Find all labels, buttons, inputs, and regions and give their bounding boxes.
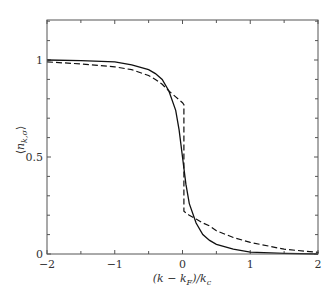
y-axis-label: ⟨nk,σ⟩ (14, 126, 29, 155)
x-axis-tick-labels: −2−1012 (39, 258, 322, 271)
x-tick-label: −1 (107, 258, 123, 271)
x-axis-label: (k − kF)/kc (153, 272, 212, 287)
y-tick-label: 0 (36, 248, 43, 261)
y-tick-label: 1 (36, 54, 43, 67)
series-layer (47, 60, 318, 254)
series-solid-line (47, 60, 318, 254)
x-tick-label: 2 (315, 258, 322, 271)
x-tick-label: 0 (179, 258, 186, 271)
y-tick-label: 0.5 (26, 151, 44, 164)
plot-frame (47, 20, 318, 254)
x-tick-label: 1 (247, 258, 254, 271)
line-chart: −2−1012 00.51 (k − kF)/kc ⟨nk,σ⟩ (0, 0, 336, 298)
minor-ticks (47, 20, 318, 254)
y-axis-tick-labels: 00.51 (26, 54, 44, 261)
